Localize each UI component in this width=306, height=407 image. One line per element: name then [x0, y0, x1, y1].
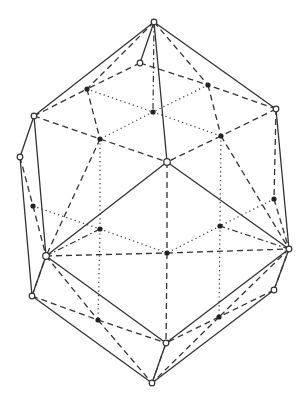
edge-dotted	[220, 199, 274, 226]
open-vertex	[151, 19, 157, 25]
edge-dashed	[34, 89, 87, 116]
edge-dashed	[87, 22, 154, 89]
edge-dashed	[98, 320, 152, 383]
edge-solid	[154, 22, 167, 162]
edge-solid	[154, 22, 276, 109]
edge-dashed	[221, 136, 289, 249]
edge-dashed	[274, 109, 276, 199]
open-vertex	[286, 246, 292, 252]
polyhedron-diagram	[0, 0, 306, 407]
edge-solid	[20, 116, 34, 157]
edge-dotted	[100, 229, 167, 253]
edge-dashed	[87, 89, 100, 139]
edge-solid	[166, 249, 289, 343]
edge-dotted	[167, 226, 220, 253]
edge-solid	[32, 296, 152, 383]
open-vertex	[31, 113, 37, 119]
filled-vertex	[30, 203, 35, 208]
edge-dashed	[34, 116, 100, 139]
edge-dashed	[152, 317, 219, 383]
open-vertex	[149, 380, 155, 386]
edge-solid	[167, 162, 289, 249]
edge-dashed	[32, 296, 98, 320]
edge-dashed	[167, 249, 289, 253]
open-vertex	[271, 287, 277, 293]
filled-vertex	[271, 196, 276, 201]
open-vertex	[137, 60, 143, 66]
edge-dashed	[140, 63, 208, 85]
filled-vertex	[217, 223, 222, 228]
edge-dashed	[221, 109, 276, 136]
edge-dashed	[46, 139, 100, 256]
edge-dotted	[219, 226, 220, 317]
edge-dashed	[219, 290, 274, 317]
filled-vertex	[218, 133, 223, 138]
edge-dashed	[166, 253, 167, 343]
edge-solid	[34, 22, 154, 116]
edge-dashed	[208, 85, 276, 109]
edge-dashed	[154, 22, 208, 85]
edge-dashed	[166, 317, 219, 343]
edge-dashed	[167, 136, 221, 162]
edge-layer	[20, 22, 289, 383]
edge-dashed	[100, 139, 167, 162]
edge-dotted	[98, 229, 100, 320]
edge-solid	[34, 116, 46, 256]
edge-dashdot	[153, 22, 154, 112]
edge-dotted	[220, 136, 221, 226]
open-vertex	[163, 340, 169, 346]
open-vertex	[273, 106, 279, 112]
filled-vertex	[150, 109, 155, 114]
edge-solid	[46, 162, 167, 256]
filled-vertex	[205, 82, 210, 87]
open-vertex	[17, 154, 23, 160]
edge-dashed	[46, 253, 167, 256]
filled-vertex	[95, 317, 100, 322]
edge-solid	[152, 290, 274, 383]
edge-dotted	[87, 89, 153, 112]
edge-dashed	[208, 85, 221, 136]
edge-dashdot	[46, 229, 100, 256]
edge-dotted	[100, 112, 153, 139]
open-vertex	[29, 293, 35, 299]
filled-vertex	[164, 250, 169, 255]
open-vertex	[164, 159, 171, 166]
filled-vertex	[97, 136, 102, 141]
edge-dashed	[219, 249, 289, 317]
edge-dashdot	[220, 226, 289, 249]
filled-vertex	[216, 314, 221, 319]
open-vertex	[43, 253, 50, 260]
filled-vertex	[84, 86, 89, 91]
edge-dashed	[87, 63, 140, 89]
filled-vertex	[97, 226, 102, 231]
vertex-layer	[17, 19, 292, 386]
